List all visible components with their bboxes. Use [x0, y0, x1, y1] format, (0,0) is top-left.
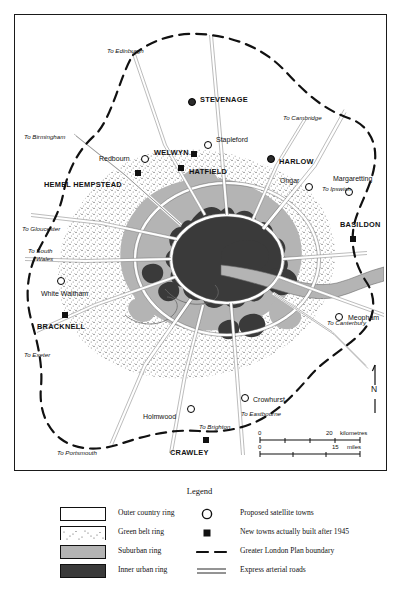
legend-row-new-towns: New towns actually built after 1945	[190, 524, 390, 542]
town-label-crowhurst: Crowhurst	[253, 396, 285, 403]
road-label-to-eastbourne: To Eastbourne	[241, 411, 281, 417]
road-label-to-birmingham: To Birmingham	[24, 134, 65, 140]
legend-label-new-towns: New towns actually built after 1945	[240, 527, 349, 536]
scale-km-unit: kilometres	[340, 430, 367, 436]
town-label-bracknell: BRACKNELL	[37, 323, 85, 330]
marker-white-waltham[interactable]	[57, 277, 65, 285]
marker-holmwood[interactable]	[187, 405, 195, 413]
town-label-hemel-hempstead: HEMEL HEMPSTEAD	[44, 181, 122, 188]
marker-stapleford[interactable]	[204, 141, 212, 149]
legend-label-green-belt-ring: Green belt ring	[118, 527, 164, 536]
marker-hemel-hempstead[interactable]	[135, 170, 141, 176]
white-waltham-text: White Waltham	[41, 290, 88, 297]
town-label-stevenage: STEVENAGE	[200, 96, 248, 103]
marker-harlow[interactable]	[267, 155, 275, 163]
marker-welwyn[interactable]	[191, 151, 197, 157]
swatch-suburban-ring	[60, 545, 106, 559]
town-label-margaretting: Margaretting	[333, 175, 372, 182]
compass-label-north: N	[371, 385, 377, 394]
town-label-holmwood: Holmwood	[143, 413, 176, 420]
road-label-to-exeter: To Exeter	[24, 352, 50, 358]
marker-stevenage[interactable]	[188, 98, 196, 106]
legend-row-outer-country: Outer country ring	[60, 505, 190, 523]
marker-crawley[interactable]	[203, 437, 209, 443]
town-label-ongar: Ongar	[280, 177, 299, 184]
scale-km-zero: 0	[258, 430, 261, 436]
legend-label-arterial-roads: Express arterial roads	[240, 565, 306, 574]
road-label-to-brighton: To Brighton	[199, 424, 230, 430]
swatch-inner-urban-ring	[60, 564, 106, 578]
dashed-line-icon	[196, 543, 232, 561]
town-label-harlow: HARLOW	[279, 158, 314, 165]
double-line-icon	[196, 562, 232, 580]
town-label-crawley: CRAWLEY	[170, 449, 209, 456]
town-label-white-waltham: White Waltham	[41, 290, 88, 297]
map-graphic	[15, 15, 384, 468]
legend-label-outer-country-ring: Outer country ring	[118, 508, 175, 517]
town-label-stapleford: Stapleford	[216, 136, 248, 143]
scale-km-max: 20	[326, 430, 333, 436]
marker-ongar[interactable]	[305, 183, 313, 191]
filled-square-icon	[196, 524, 232, 542]
legend-row-plan-boundary: Greater London Plan boundary	[190, 543, 390, 561]
legend-row-inner-urban: Inner urban ring	[60, 562, 190, 580]
marker-hatfield[interactable]	[178, 165, 184, 171]
swatch-outer-country-ring	[60, 507, 106, 521]
road-label-to-cambridge: To Cambridge	[283, 115, 322, 121]
legend-row-satellite-towns: Proposed satellite towns	[190, 505, 390, 523]
road-label-to-portsmouth: To Portsmouth	[57, 450, 97, 456]
marker-crowhurst[interactable]	[241, 394, 249, 402]
legend-row-arterial-roads: Express arterial roads	[190, 562, 390, 580]
road-label-to-ipswich: To Ipswich	[322, 186, 351, 192]
legend-row-suburban: Suburban ring	[60, 543, 190, 561]
road-label-to-south: To South	[28, 248, 53, 254]
road-label-to-gloucester: To Gloucester	[22, 226, 60, 232]
road-label-to-edinburgh: To Edinburgh	[107, 48, 144, 54]
town-label-welwyn: WELWYN	[154, 149, 189, 156]
marker-bracknell[interactable]	[62, 312, 68, 318]
legend-row-green-belt: Green belt ring	[60, 524, 190, 542]
legend-label-suburban-ring: Suburban ring	[118, 546, 161, 555]
town-label-hatfield: HATFIELD	[189, 168, 227, 175]
stipple-fill-icon	[61, 529, 105, 541]
swatch-green-belt-ring	[60, 526, 106, 540]
town-label-basildon: BASILDON	[340, 221, 381, 228]
legend-label-satellite-towns: Proposed satellite towns	[240, 508, 314, 517]
open-circle-icon	[196, 505, 232, 523]
legend-title: Legend	[0, 486, 399, 496]
marker-basildon[interactable]	[350, 236, 356, 242]
legend-label-plan-boundary: Greater London Plan boundary	[240, 546, 334, 555]
legend-label-inner-urban-ring: Inner urban ring	[118, 565, 167, 574]
scale-mi-max: 15	[332, 444, 339, 450]
road-label-wales: Wales	[36, 256, 53, 262]
legend: Outer country ring Green belt ring Subur…	[0, 505, 399, 585]
road-label-to-canterbury: To Canterbury	[327, 320, 366, 326]
map-frame: STEVENAGE WELWYN HATFIELD HARLOW HEMEL H…	[14, 14, 387, 471]
town-label-redbourn: Redbourn	[99, 155, 130, 162]
scale-mi-unit: miles	[347, 444, 361, 450]
scale-mi-zero: 0	[258, 444, 261, 450]
marker-redbourn[interactable]	[141, 155, 149, 163]
